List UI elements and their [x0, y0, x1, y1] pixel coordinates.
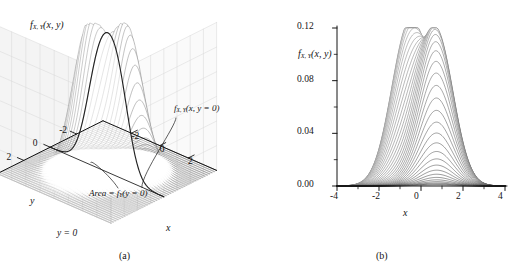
figure-container: fX, Y(x, y) fX, Y(x, y = 0) Area = fY(y … — [0, 0, 514, 272]
panel-b-x-tick: 0 — [414, 191, 419, 201]
panel-a-plot-svg — [0, 0, 257, 248]
panel-a-slice-plane-label: y = 0 — [57, 228, 77, 238]
panel-b-y-axis-label: fX, Y(x, y) — [298, 48, 332, 59]
panel-b-x-tick: 4 — [498, 191, 503, 201]
panel-b-plot-svg — [257, 0, 514, 248]
panel-b-y-tick: 0.08 — [297, 74, 314, 84]
panel-b-x-tick: -4 — [330, 191, 338, 201]
panel-a-x-tick: 0 — [160, 144, 165, 154]
panel-b-y-tick: 0.04 — [297, 126, 314, 136]
panel-b-y-tick: 0.12 — [297, 21, 314, 31]
panel-a-y-tick: -2 — [59, 125, 67, 135]
panel-b-x-tick: 2 — [456, 191, 461, 201]
panel-b-y-tick: 0.00 — [297, 179, 314, 189]
panel-b-x-tick: -2 — [372, 191, 380, 201]
panel-a-3d-surface: fX, Y(x, y) fX, Y(x, y = 0) Area = fY(y … — [0, 0, 257, 272]
panel-a-x-tick: -2 — [131, 131, 139, 141]
panel-a-y-tick: 0 — [33, 138, 38, 148]
panel-a-y-axis-label: y — [30, 195, 34, 206]
panel-b-caption: (b) — [376, 250, 388, 261]
panel-a-caption: (a) — [119, 250, 130, 261]
panel-a-y-tick: 2 — [6, 152, 11, 162]
panel-a-z-axis-label: fX, Y(x, y) — [30, 19, 64, 30]
panel-a-area-callout-label: Area = fY(y = 0) — [89, 188, 147, 198]
panel-a-x-tick: 2 — [188, 156, 193, 166]
panel-b-curve-family: fX, Y(x, y) x 0.120.080.040.00 -4-2024 (… — [257, 0, 514, 272]
panel-b-x-axis-label: x — [403, 207, 407, 218]
panel-a-x-axis-label: x — [166, 222, 170, 233]
panel-a-slice-callout-label: fX, Y(x, y = 0) — [174, 103, 219, 113]
